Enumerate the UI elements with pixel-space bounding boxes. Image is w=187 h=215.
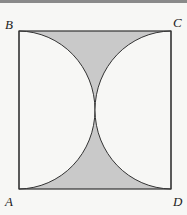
vertex-label-b: B: [5, 17, 13, 33]
vertex-label-d: D: [173, 194, 182, 210]
vertex-label-c: C: [173, 15, 182, 31]
vertex-label-a: A: [5, 194, 13, 210]
square-with-arcs-figure: [0, 0, 187, 215]
